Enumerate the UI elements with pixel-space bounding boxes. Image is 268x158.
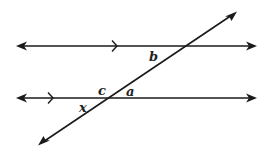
top-parallel-line (16, 41, 257, 52)
diagram-svg: b c a x (0, 0, 268, 158)
angle-label-a: a (126, 84, 134, 99)
angle-label-b: b (149, 49, 158, 64)
transversal-bottom-arrowhead-icon (38, 136, 50, 146)
transversal-line (38, 12, 237, 146)
diagram-canvas: b c a x (0, 0, 268, 158)
angle-label-x: x (78, 100, 87, 115)
bottom-parallel-line (16, 93, 257, 104)
transversal-segment (43, 15, 232, 142)
angle-label-c: c (98, 83, 106, 98)
transversal-top-arrowhead-icon (225, 12, 237, 22)
